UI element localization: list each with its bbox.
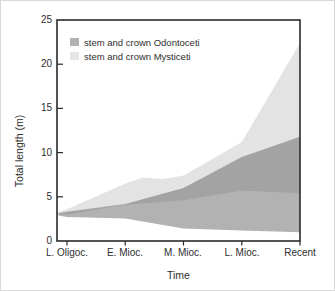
- y-tick-label-25: 25: [12, 14, 52, 26]
- y-tick-label-20: 20: [12, 58, 52, 70]
- x-tick-label-l-mioc: L. Mioc.: [210, 247, 274, 259]
- x-tick-label-e-mioc: E. Mioc.: [93, 247, 157, 259]
- odontoceti-swatch-icon: [70, 38, 79, 46]
- x-axis-title: Time: [57, 269, 300, 281]
- y-axis-title: Total length (m): [13, 96, 25, 206]
- legend-item-odontoceti: stem and crown Odontoceti: [70, 35, 200, 49]
- legend-item-mysticeti: stem and crown Mysticeti: [70, 49, 200, 63]
- legend-label-odontoceti: stem and crown Odontoceti: [84, 37, 200, 48]
- y-tick-label-0: 0: [12, 235, 52, 247]
- x-tick-label-m-mioc: M. Mioc.: [151, 247, 215, 259]
- area-bands: [58, 43, 300, 232]
- legend-label-mysticeti: stem and crown Mysticeti: [84, 51, 191, 62]
- figure: 25 20 15 10 5 0 L. Oligoc. E. Mioc. M. M…: [0, 0, 335, 291]
- x-tick-label-recent: Recent: [268, 247, 332, 259]
- mysticeti-swatch-icon: [70, 52, 79, 60]
- x-tick-label-l-oligoc: L. Oligoc.: [35, 247, 99, 259]
- legend: stem and crown Odontoceti stem and crown…: [70, 35, 200, 63]
